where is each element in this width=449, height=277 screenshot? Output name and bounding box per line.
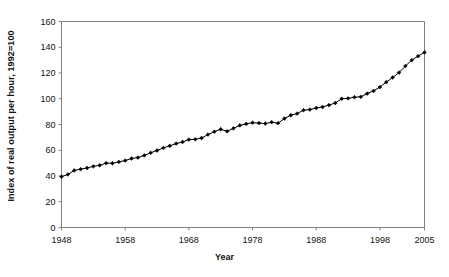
data-series-line — [62, 52, 425, 176]
svg-text:60: 60 — [45, 145, 55, 155]
svg-text:40: 40 — [45, 171, 55, 181]
x-axis-title-text: Year — [215, 252, 234, 262]
chart-figure: Index of real output per hour, 1992=100 … — [0, 0, 449, 277]
svg-text:20: 20 — [45, 197, 55, 207]
svg-text:140: 140 — [40, 42, 55, 52]
x-axis-title: Year — [0, 252, 449, 262]
svg-text:2005: 2005 — [414, 235, 434, 245]
svg-text:1978: 1978 — [243, 235, 263, 245]
svg-text:1988: 1988 — [306, 235, 326, 245]
svg-text:0: 0 — [50, 223, 55, 233]
svg-text:1948: 1948 — [51, 235, 71, 245]
svg-text:160: 160 — [40, 17, 55, 27]
svg-text:80: 80 — [45, 120, 55, 130]
svg-text:120: 120 — [40, 68, 55, 78]
chart-plot-area: 020406080100120140160 194819581968197819… — [0, 0, 449, 250]
y-axis-ticks: 020406080100120140160 — [40, 17, 61, 233]
svg-text:1968: 1968 — [179, 235, 199, 245]
x-axis-ticks: 1948195819681978198819982005 — [51, 228, 434, 245]
svg-text:1958: 1958 — [115, 235, 135, 245]
svg-text:1998: 1998 — [370, 235, 390, 245]
data-series-markers — [60, 51, 427, 179]
svg-text:100: 100 — [40, 94, 55, 104]
